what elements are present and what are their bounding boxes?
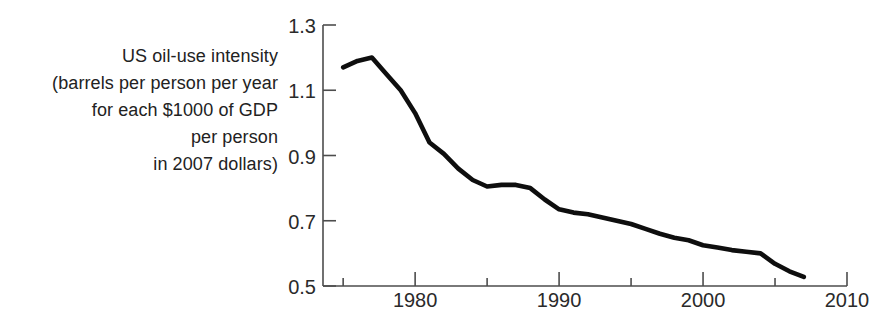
y-tick-label: 0.9 bbox=[288, 146, 316, 168]
y-tick-label: 0.5 bbox=[288, 276, 316, 298]
line-chart: 0.50.70.91.11.31980199020002010 bbox=[0, 0, 894, 327]
y-tick-label: 1.1 bbox=[288, 80, 316, 102]
y-tick-label: 0.7 bbox=[288, 211, 316, 233]
data-line bbox=[343, 58, 804, 277]
y-tick-label: 1.3 bbox=[288, 15, 316, 37]
x-tick-label: 1990 bbox=[537, 289, 582, 311]
x-tick-label: 2000 bbox=[681, 289, 726, 311]
oil-intensity-figure: US oil-use intensity (barrels per person… bbox=[0, 0, 894, 327]
x-tick-label: 2010 bbox=[825, 289, 870, 311]
x-tick-label: 1980 bbox=[393, 289, 438, 311]
